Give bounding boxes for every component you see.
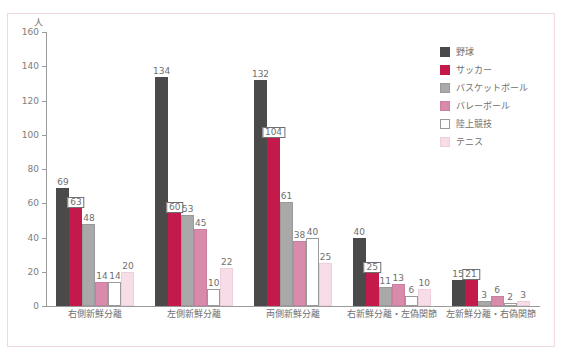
bar-value-label: 6: [494, 286, 500, 295]
bar-value-label: 10: [208, 279, 219, 288]
bar: 38: [293, 241, 306, 306]
legend-swatch: [440, 119, 450, 129]
bar-value-label: 14: [109, 272, 120, 281]
bar-value-label: 69: [57, 178, 68, 187]
y-axis-tick-label: 0: [33, 302, 39, 311]
legend-item[interactable]: バスケットボール: [440, 79, 528, 97]
bar-value-label: 60: [166, 202, 183, 213]
bar: 6: [405, 296, 418, 306]
bar: 53: [181, 215, 194, 306]
bar-value-label: 6: [408, 286, 414, 295]
bar-value-label: 25: [364, 262, 381, 273]
legend-item[interactable]: 陸上競技: [440, 115, 528, 133]
legend-swatch: [440, 65, 450, 75]
bar: 20: [121, 272, 134, 306]
bar-value-label: 45: [195, 219, 206, 228]
legend-label: バレーボール: [456, 102, 510, 111]
bar-value-label: 21: [462, 269, 479, 280]
bar: 10: [418, 289, 431, 306]
bar: 14: [95, 282, 108, 306]
y-axis-tick-label: 20: [28, 267, 39, 276]
bar: 45: [194, 229, 207, 306]
bar-value-label: 61: [281, 192, 292, 201]
bar: 60: [168, 203, 181, 306]
bar: 11: [379, 287, 392, 306]
bar-value-label: 10: [419, 279, 430, 288]
bar: 48: [82, 224, 95, 306]
legend-swatch: [440, 101, 450, 111]
bar-value-label: 22: [221, 258, 232, 267]
y-axis-tick-label: 60: [28, 199, 39, 208]
x-axis-line: [46, 306, 540, 307]
y-axis-tick-label: 160: [22, 28, 39, 37]
bar: 25: [366, 263, 379, 306]
x-axis-category-label: 右側新鮮分離: [68, 310, 122, 319]
bar-value-label: 134: [153, 67, 170, 76]
bar-value-label: 13: [393, 274, 404, 283]
legend-label: テニス: [456, 138, 483, 147]
bar-group: 13210461384025両側新鮮分離: [254, 32, 332, 306]
y-axis-tick-label: 120: [22, 96, 39, 105]
legend-label: サッカー: [456, 66, 492, 75]
legend-label: 野球: [456, 48, 474, 57]
bar: 22: [220, 268, 233, 306]
bar: 14: [108, 282, 121, 306]
bar-value-label: 104: [262, 127, 285, 138]
bar: 25: [319, 263, 332, 306]
bar: 132: [254, 80, 267, 306]
y-axis-tick-label: 40: [28, 233, 39, 242]
bar-value-label: 53: [182, 205, 193, 214]
chart-page: 人 020406080100120140160 696348141420右側新鮮…: [0, 0, 563, 358]
y-axis-tick: [42, 306, 46, 307]
bar: 6: [491, 296, 504, 306]
bar: 21: [465, 270, 478, 306]
bar: 134: [155, 77, 168, 306]
bar: 3: [478, 301, 491, 306]
bar-value-label: 11: [380, 277, 391, 286]
legend-label: バスケットボール: [456, 84, 528, 93]
x-axis-category-label: 左新鮮分離・右偽関節: [446, 310, 536, 319]
bar-value-label: 3: [520, 291, 526, 300]
legend-item[interactable]: バレーボール: [440, 97, 528, 115]
bar-value-label: 25: [320, 253, 331, 262]
bar: 2: [504, 303, 517, 306]
bar-value-label: 38: [294, 231, 305, 240]
bar-value-label: 14: [96, 272, 107, 281]
bar-value-label: 63: [67, 197, 84, 208]
bar-value-label: 20: [122, 262, 133, 271]
bar: 15: [452, 280, 465, 306]
bar: 3: [517, 301, 530, 306]
bar: 40: [306, 238, 319, 307]
chart-legend: 野球サッカーバスケットボールバレーボール陸上競技テニス: [440, 43, 528, 151]
bar: 13: [392, 284, 405, 306]
bar-group: 40251113610右新鮮分離・左偽関節: [353, 32, 431, 306]
bar-value-label: 3: [481, 291, 487, 300]
legend-label: 陸上競技: [456, 120, 492, 129]
legend-swatch: [440, 137, 450, 147]
bar: 61: [280, 202, 293, 306]
legend-item[interactable]: サッカー: [440, 61, 528, 79]
bar: 10: [207, 289, 220, 306]
legend-swatch: [440, 83, 450, 93]
x-axis-category-label: 両側新鮮分離: [266, 310, 320, 319]
bar-value-label: 40: [307, 228, 318, 237]
bar-group: 696348141420右側新鮮分離: [56, 32, 134, 306]
x-axis-category-label: 左側新鮮分離: [167, 310, 221, 319]
bar-value-label: 48: [83, 214, 94, 223]
x-axis-category-label: 右新鮮分離・左偽関節: [347, 310, 437, 319]
y-axis-tick-label: 80: [28, 165, 39, 174]
bar-value-label: 40: [354, 228, 365, 237]
y-axis-tick-label: 140: [22, 62, 39, 71]
bar-group: 1346053451022左側新鮮分離: [155, 32, 233, 306]
legend-item[interactable]: テニス: [440, 133, 528, 151]
y-axis-tick-label: 100: [22, 130, 39, 139]
legend-swatch: [440, 47, 450, 57]
bar-value-label: 132: [252, 70, 269, 79]
legend-item[interactable]: 野球: [440, 43, 528, 61]
bar: 63: [69, 198, 82, 306]
bar: 104: [267, 128, 280, 306]
bar-value-label: 2: [507, 293, 513, 302]
